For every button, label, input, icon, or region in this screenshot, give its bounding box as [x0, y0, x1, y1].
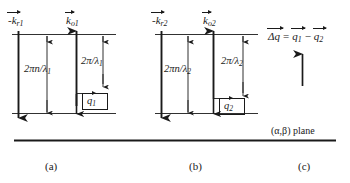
- panel-a-label-2pin-lambda1: 2πn/λ1: [24, 64, 51, 76]
- wavevector-diagram-figure: -kr1 ko1 2πn/λ1 2π/λ1 q1 (a) -kr2 ko2 2π…: [0, 0, 350, 183]
- panel-b-label-q2: q2: [224, 101, 233, 113]
- alpha-beta-plane-label: (α,β) plane: [271, 126, 315, 136]
- panel-b-label-kr2: -kr2: [152, 15, 168, 28]
- panel-b-label-2pin-lambda2: 2πn/λ2: [164, 64, 191, 76]
- panel-b-label-2pi-lambda2: 2π/λ2: [221, 56, 243, 68]
- panel-a-caption: (a): [45, 160, 57, 172]
- panel-a-label-kr1: -kr1: [8, 15, 24, 28]
- panel-c-equation: Δq=q1−q2: [268, 31, 323, 44]
- panel-c-equation-lhs: Δq: [268, 31, 280, 42]
- panel-a-label-2pi-lambda1: 2π/λ1: [81, 56, 103, 68]
- panel-c-equation-term1: q1: [292, 31, 301, 44]
- panel-c-equation-term2: q2: [314, 31, 323, 44]
- panel-a-label-q1: q1: [87, 96, 96, 108]
- panel-c-caption: (c): [298, 160, 310, 172]
- panel-a-label-ko1: ko1: [66, 15, 79, 28]
- panel-b-caption: (b): [189, 160, 202, 172]
- panel-b-label-ko2: ko2: [203, 15, 216, 28]
